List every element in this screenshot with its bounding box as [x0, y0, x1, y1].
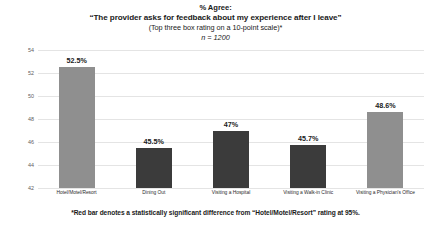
page-title: % Agree:: [0, 3, 431, 13]
plot-area: 42444648505254 52.5%45.5%47%45.7%48.6%: [38, 50, 424, 188]
y-axis-tick-label: 54: [28, 47, 34, 53]
y-axis-tick-label: 48: [28, 116, 34, 122]
y-axis-tick-label: 42: [28, 185, 34, 191]
sample-size-label: n = 1200: [0, 33, 431, 43]
bar-chart: % Agree: “The provider asks for feedback…: [0, 0, 431, 225]
bar[interactable]: [367, 112, 403, 188]
bar[interactable]: [290, 145, 326, 188]
chart-subtitle: “The provider asks for feedback about my…: [0, 13, 431, 23]
bar-value-label: 47%: [224, 120, 238, 129]
bar-value-label: 45.7%: [298, 134, 318, 143]
bar-slot: 52.5%: [59, 50, 95, 188]
chart-subtitle-secondary: (Top three box rating on a 10-point scal…: [0, 23, 431, 33]
bar-slot: 45.7%: [290, 50, 326, 188]
x-axis-tick-label: Visiting a Physician's Office: [356, 190, 415, 196]
bar-value-label: 48.6%: [375, 101, 395, 110]
gridline: 42: [38, 188, 424, 189]
y-axis-tick-label: 46: [28, 139, 34, 145]
bar-slot: 45.5%: [136, 50, 172, 188]
y-axis-tick-label: 52: [28, 70, 34, 76]
bar-slot: 48.6%: [367, 50, 403, 188]
bar-slot: 47%: [213, 50, 249, 188]
bar[interactable]: [59, 67, 95, 188]
chart-footnote: *Red bar denotes a statistically signifi…: [0, 209, 431, 216]
bar[interactable]: [136, 148, 172, 188]
x-axis-tick-label: Visiting a Hospital: [212, 190, 250, 196]
bar[interactable]: [213, 131, 249, 189]
y-axis-tick-label: 50: [28, 93, 34, 99]
chart-title-block: % Agree: “The provider asks for feedback…: [0, 3, 431, 42]
bars-group: 52.5%45.5%47%45.7%48.6%: [38, 50, 424, 188]
x-axis-labels: Hotel/Motel/ResortDining OutVisiting a H…: [38, 190, 424, 204]
x-axis-tick-label: Dining Out: [142, 190, 165, 196]
bar-value-label: 52.5%: [66, 56, 86, 65]
x-axis-tick-label: Hotel/Motel/Resort: [57, 190, 97, 196]
x-axis-tick-label: Visiting a Walk-in Clinic: [283, 190, 333, 196]
bar-value-label: 45.5%: [144, 137, 164, 146]
y-axis-tick-label: 44: [28, 162, 34, 168]
